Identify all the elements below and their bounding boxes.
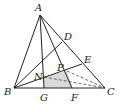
label-N: N (33, 71, 44, 82)
label-B: B (3, 86, 11, 97)
label-G: G (40, 92, 48, 103)
label-D: D (63, 31, 72, 42)
label-A: A (34, 2, 42, 13)
label-P: P (56, 62, 64, 73)
geometry-diagram: A B C D E G F N P (0, 0, 123, 105)
label-F: F (70, 92, 79, 103)
label-C: C (107, 86, 115, 97)
label-E: E (83, 54, 92, 65)
segment-PC (67, 71, 105, 88)
